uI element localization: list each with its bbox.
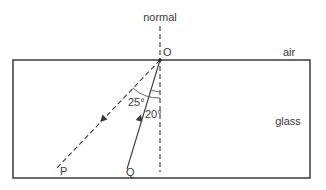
normal-label: normal bbox=[143, 11, 177, 23]
reflected-ray-arrow-icon bbox=[98, 115, 108, 125]
glass-label: glass bbox=[275, 115, 301, 127]
point-q-label: Q bbox=[126, 166, 135, 178]
air-label: air bbox=[283, 46, 296, 58]
point-o-label: O bbox=[163, 46, 172, 58]
point-o-marker bbox=[158, 58, 161, 61]
point-p-label: P bbox=[60, 165, 67, 177]
refraction-diagram: normal O air glass P Q 25° 20° bbox=[0, 0, 326, 190]
angle-20-label: 20° bbox=[145, 108, 162, 120]
angle-arc-20 bbox=[151, 90, 160, 92]
angle-25-label: 25° bbox=[128, 96, 145, 108]
